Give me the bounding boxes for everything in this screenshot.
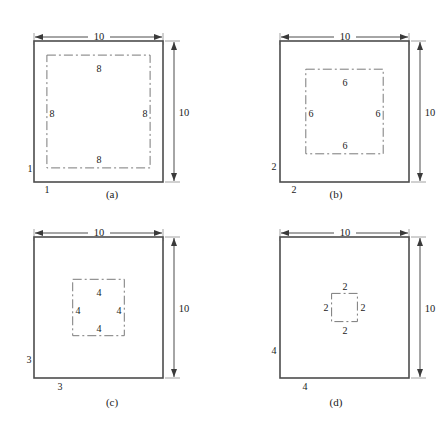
panel-d-height-label: 10 — [425, 303, 436, 314]
figure-panel-c: 10 10 4 4 4 4 3 3 (c) — [0, 211, 224, 422]
panel-a-height-label: 10 — [179, 107, 190, 118]
panel-c-inner-right-label: 4 — [117, 305, 122, 316]
panel-d-inner-right-label: 2 — [361, 302, 366, 313]
panel-c-square — [34, 237, 163, 378]
panel-b-offset-left-label: 2 — [272, 161, 277, 172]
panel-c-inner-top-label: 4 — [97, 287, 102, 298]
panel-a-inner-right-label: 8 — [143, 108, 148, 119]
panel-d-inner-left-label: 2 — [324, 302, 329, 313]
panel-a-offset-left-label: 1 — [28, 163, 33, 174]
figure-sheet: 10 10 8 8 8 8 1 1 (a) — [0, 0, 448, 423]
panel-d-inner-top-label: 2 — [343, 281, 348, 292]
panel-c-offset-left-label: 3 — [27, 354, 32, 365]
panel-b-square — [280, 41, 409, 182]
panel-a-inner-left-label: 8 — [50, 108, 55, 119]
panel-a-inner-bottom-label: 8 — [97, 154, 102, 165]
panel-c-offset-bottom-label: 3 — [58, 381, 63, 392]
panel-b-inner-bottom-label: 6 — [343, 140, 348, 151]
panel-c-inner-bottom-label: 4 — [97, 323, 102, 334]
panel-d-inner-bottom-label: 2 — [343, 325, 348, 336]
panel-c-inner-left-label: 4 — [76, 305, 81, 316]
panel-b-inner-left-label: 6 — [309, 108, 314, 119]
panel-b-caption: (b) — [224, 188, 448, 200]
panel-a-caption: (a) — [0, 188, 224, 200]
panel-b-inner-right-label: 6 — [376, 108, 381, 119]
panel-d-caption: (d) — [224, 396, 448, 408]
figure-panel-a: 10 10 8 8 8 8 1 1 (a) — [0, 0, 224, 211]
panel-b-height-label: 10 — [425, 107, 436, 118]
panel-d-offset-bottom-label: 4 — [303, 381, 308, 392]
panel-a-inner-top-label: 8 — [97, 63, 102, 74]
panel-c-caption: (c) — [0, 396, 224, 408]
figure-panel-b: 10 10 6 6 6 6 2 2 (b) — [224, 0, 448, 211]
panel-c-height-label: 10 — [179, 303, 190, 314]
panel-d-offset-left-label: 4 — [272, 345, 277, 356]
panel-d-square — [280, 237, 409, 378]
figure-panel-d: 10 10 2 2 2 2 4 4 (d) — [224, 211, 448, 422]
panel-b-inner-top-label: 6 — [343, 77, 348, 88]
